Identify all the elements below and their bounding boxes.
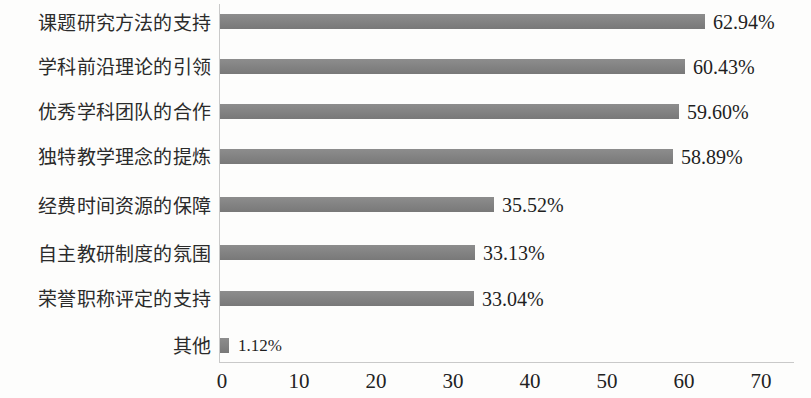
category-label: 其他 <box>0 337 211 356</box>
bar[interactable] <box>220 104 679 119</box>
bar[interactable] <box>220 197 494 212</box>
x-tick-label: 50 <box>597 369 618 393</box>
category-label: 荣誉职称评定的支持 <box>0 290 211 309</box>
bar[interactable] <box>220 149 673 164</box>
bar[interactable] <box>220 59 685 74</box>
x-tick-label: 10 <box>289 369 310 393</box>
bar-value-label: 58.89% <box>681 146 743 166</box>
category-axis-labels: 课题研究方法的支持 学科前沿理论的引领 优秀学科团队的合作 独特教学理念的提炼 … <box>0 0 211 363</box>
x-tick-label: 40 <box>520 369 541 393</box>
x-tick-label: 30 <box>443 369 464 393</box>
bar-value-label: 62.94% <box>713 11 775 31</box>
bar-value-label: 33.13% <box>483 242 545 262</box>
bar[interactable] <box>220 245 475 260</box>
bar-value-label: 1.12% <box>238 335 282 355</box>
category-label: 优秀学科团队的合作 <box>0 103 211 122</box>
bar-chart: 课题研究方法的支持 学科前沿理论的引领 优秀学科团队的合作 独特教学理念的提炼 … <box>0 0 811 398</box>
bar[interactable] <box>220 14 705 29</box>
plot-area: 62.94% 60.43% 59.60% 58.89% 35.52% 33.13… <box>219 4 794 363</box>
bar-value-label: 33.04% <box>482 288 544 308</box>
category-label: 自主教研制度的氛围 <box>0 245 211 264</box>
x-tick-label: 60 <box>674 369 695 393</box>
category-label: 经费时间资源的保障 <box>0 197 211 216</box>
category-label: 独特教学理念的提炼 <box>0 148 211 167</box>
x-axis: 0 10 20 30 40 50 60 70 <box>219 365 809 398</box>
x-tick-label: 70 <box>751 369 772 393</box>
bar-value-label: 35.52% <box>502 194 564 214</box>
bar-value-label: 60.43% <box>693 56 755 76</box>
x-tick-label: 20 <box>366 369 387 393</box>
category-label: 学科前沿理论的引领 <box>0 58 211 77</box>
x-tick-label: 0 <box>217 369 228 393</box>
bar[interactable] <box>220 291 474 306</box>
bar[interactable] <box>220 338 229 353</box>
category-label: 课题研究方法的支持 <box>0 14 211 33</box>
bar-value-label: 59.60% <box>687 101 749 121</box>
